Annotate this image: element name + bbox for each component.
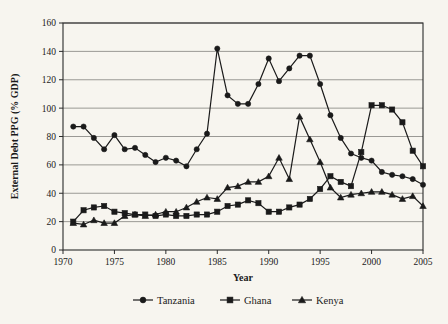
xtick-label-1970: 1970 xyxy=(54,257,73,267)
point-kenya-1993 xyxy=(296,113,303,119)
series-line-kenya xyxy=(73,117,423,225)
point-kenya-1990 xyxy=(265,173,272,179)
point-tanzania-1972 xyxy=(81,124,86,129)
point-ghana-1998 xyxy=(348,184,353,189)
point-tanzania-1977 xyxy=(132,145,137,150)
point-tanzania-1978 xyxy=(143,152,148,157)
point-ghana-1974 xyxy=(102,203,107,208)
line-chart: 0204060801001201401601970197519801985199… xyxy=(0,0,448,324)
point-tanzania-1993 xyxy=(297,53,302,58)
point-ghana-1986 xyxy=(225,203,230,208)
point-tanzania-1998 xyxy=(348,151,353,156)
ytick-label-40: 40 xyxy=(47,189,57,199)
legend-label-ghana: Ghana xyxy=(244,295,272,306)
point-tanzania-1990 xyxy=(266,56,271,61)
x-axis-title: Year xyxy=(233,272,254,283)
point-kenya-1992 xyxy=(286,176,293,182)
ytick-label-140: 140 xyxy=(42,47,57,57)
point-tanzania-1973 xyxy=(91,135,96,140)
point-tanzania-1987 xyxy=(235,101,240,106)
chart-container: 0204060801001201401601970197519801985199… xyxy=(0,0,448,324)
xtick-label-1975: 1975 xyxy=(105,257,124,267)
point-ghana-1995 xyxy=(318,186,323,191)
ytick-label-120: 120 xyxy=(42,75,57,85)
point-ghana-1982 xyxy=(184,213,189,218)
legend-label-kenya: Kenya xyxy=(316,295,344,306)
point-tanzania-1980 xyxy=(163,155,168,160)
xtick-label-2005: 2005 xyxy=(414,257,433,267)
point-tanzania-1984 xyxy=(204,131,209,136)
point-ghana-1992 xyxy=(287,205,292,210)
point-tanzania-1992 xyxy=(287,66,292,71)
point-ghana-1973 xyxy=(91,205,96,210)
point-ghana-2001 xyxy=(379,103,384,108)
ytick-label-60: 60 xyxy=(47,160,57,170)
point-tanzania-2002 xyxy=(390,172,395,177)
xtick-label-1995: 1995 xyxy=(311,257,330,267)
point-tanzania-1996 xyxy=(328,113,333,118)
point-tanzania-1997 xyxy=(338,135,343,140)
ytick-label-20: 20 xyxy=(47,217,57,227)
point-ghana-1991 xyxy=(276,209,281,214)
legend-label-tanzania: Tanzania xyxy=(157,295,195,306)
point-tanzania-1991 xyxy=(276,79,281,84)
ytick-label-80: 80 xyxy=(47,132,57,142)
point-ghana-1994 xyxy=(307,196,312,201)
point-kenya-1996 xyxy=(327,184,334,190)
point-ghana-1990 xyxy=(266,209,271,214)
point-ghana-1985 xyxy=(215,209,220,214)
point-kenya-1991 xyxy=(276,155,283,161)
point-tanzania-1988 xyxy=(246,101,251,106)
point-ghana-1983 xyxy=(194,212,199,217)
point-ghana-1989 xyxy=(256,201,261,206)
point-ghana-1999 xyxy=(359,150,364,155)
point-tanzania-1975 xyxy=(112,132,117,137)
point-tanzania-1974 xyxy=(102,147,107,152)
xtick-label-1980: 1980 xyxy=(156,257,175,267)
ytick-label-100: 100 xyxy=(42,104,57,114)
y-axis-title: External Debt PPG (% GDP) xyxy=(9,74,21,200)
point-tanzania-1989 xyxy=(256,81,261,86)
point-ghana-1972 xyxy=(81,208,86,213)
point-ghana-1993 xyxy=(297,202,302,207)
xtick-label-2000: 2000 xyxy=(362,257,381,267)
series-line-tanzania xyxy=(73,49,423,185)
point-ghana-2002 xyxy=(390,107,395,112)
point-ghana-1996 xyxy=(328,174,333,179)
ytick-label-0: 0 xyxy=(51,245,56,255)
point-tanzania-1986 xyxy=(225,93,230,98)
point-tanzania-1995 xyxy=(318,81,323,86)
point-tanzania-1982 xyxy=(184,164,189,169)
point-tanzania-1971 xyxy=(71,124,76,129)
point-ghana-1987 xyxy=(235,202,240,207)
xtick-label-1985: 1985 xyxy=(208,257,227,267)
point-ghana-1997 xyxy=(338,179,343,184)
point-tanzania-1981 xyxy=(174,158,179,163)
point-tanzania-2003 xyxy=(400,174,405,179)
point-ghana-2000 xyxy=(369,103,374,108)
xtick-label-1990: 1990 xyxy=(259,257,278,267)
point-tanzania-2001 xyxy=(379,169,384,174)
point-ghana-2004 xyxy=(410,148,415,153)
point-kenya-1973 xyxy=(91,217,98,223)
point-tanzania-2004 xyxy=(410,176,415,181)
point-tanzania-1976 xyxy=(122,147,127,152)
point-ghana-1988 xyxy=(246,198,251,203)
point-ghana-1975 xyxy=(112,209,117,214)
point-ghana-2005 xyxy=(420,164,425,169)
point-kenya-1984 xyxy=(204,194,211,200)
point-tanzania-1979 xyxy=(153,159,158,164)
point-tanzania-1983 xyxy=(194,147,199,152)
point-tanzania-2005 xyxy=(420,182,425,187)
point-kenya-1995 xyxy=(317,159,324,165)
point-tanzania-2000 xyxy=(369,158,374,163)
ytick-label-160: 160 xyxy=(42,18,57,28)
legend-marker-ghana xyxy=(227,297,233,303)
series-line-ghana xyxy=(73,105,423,221)
point-tanzania-1985 xyxy=(215,46,220,51)
point-ghana-2003 xyxy=(400,120,405,125)
legend-marker-tanzania xyxy=(140,297,146,303)
point-ghana-1984 xyxy=(204,212,209,217)
point-kenya-1982 xyxy=(183,204,190,210)
point-tanzania-1994 xyxy=(307,53,312,58)
